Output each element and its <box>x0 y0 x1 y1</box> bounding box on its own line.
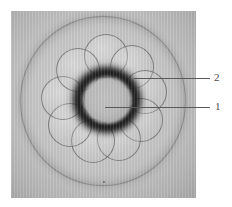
callout-number-1: 1 <box>215 101 221 112</box>
debris-speck <box>103 181 105 183</box>
callout-number-2: 2 <box>214 72 220 83</box>
inner-lumen <box>84 78 131 123</box>
leader-line-1 <box>105 107 210 108</box>
micrograph-image <box>11 11 196 198</box>
leader-line-2 <box>134 78 210 79</box>
figure-root: 2 1 <box>0 0 232 207</box>
